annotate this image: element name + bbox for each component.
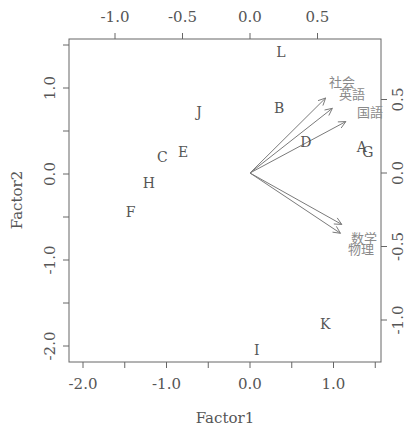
loading-arrow xyxy=(250,98,326,173)
arrow-head-icon xyxy=(333,226,341,233)
tick-label: -1.0 xyxy=(101,8,130,26)
x-axis-bottom: -2.0-1.00.01.0 xyxy=(69,362,376,393)
tick-label: 0.0 xyxy=(41,162,59,186)
observation-label: G xyxy=(362,144,373,160)
loading-arrow xyxy=(250,173,342,224)
observation-label: E xyxy=(178,144,188,160)
y-axis-left: 1.00.0-1.0-2.0 xyxy=(41,45,69,360)
loading-label: 物理 xyxy=(348,242,374,257)
tick-label: -2.0 xyxy=(41,332,59,361)
tick-label: 1.0 xyxy=(322,375,346,393)
loading-arrow xyxy=(250,122,346,173)
observation-label: H xyxy=(143,175,155,191)
tick-label: -1.0 xyxy=(389,306,407,335)
tick-label: 0.5 xyxy=(306,8,330,26)
observation-label: F xyxy=(126,204,136,220)
tick-label: -1.0 xyxy=(152,375,181,393)
loading-arrows: 社会英語国語数学物理 xyxy=(250,75,383,257)
observation-label: B xyxy=(274,100,284,116)
tick-label: -2.0 xyxy=(69,375,98,393)
observation-label: J xyxy=(194,104,202,120)
tick-label: -1.0 xyxy=(41,246,59,275)
tick-label: 0.5 xyxy=(389,88,407,112)
tick-label: 1.0 xyxy=(41,76,59,100)
tick-label: 0.0 xyxy=(238,8,262,26)
observation-label: K xyxy=(320,316,331,332)
loading-label: 国語 xyxy=(357,105,383,120)
loading-arrow xyxy=(250,173,340,233)
observation-labels: ABCDEFGHIJKL xyxy=(126,44,374,358)
observation-label: L xyxy=(276,44,285,60)
tick-label: 0.0 xyxy=(238,375,262,393)
x-axis-top: -1.0-0.50.00.5 xyxy=(101,8,330,39)
tick-label: 0.0 xyxy=(389,161,407,185)
tick-label: -0.5 xyxy=(389,232,407,261)
y-axis-title: Factor2 xyxy=(8,171,26,230)
observation-label: I xyxy=(254,342,260,358)
observation-label: D xyxy=(300,134,311,150)
x-axis-title: Factor1 xyxy=(196,409,255,427)
biplot-chart: -2.0-1.00.01.0 1.00.0-1.0-2.0 -1.0-0.50.… xyxy=(0,0,419,437)
y-axis-right: 0.50.0-0.5-1.0 xyxy=(381,88,407,335)
tick-label: -0.5 xyxy=(168,8,197,26)
observation-label: C xyxy=(157,149,168,165)
loading-arrow xyxy=(250,108,332,173)
loading-label: 英語 xyxy=(339,87,365,102)
